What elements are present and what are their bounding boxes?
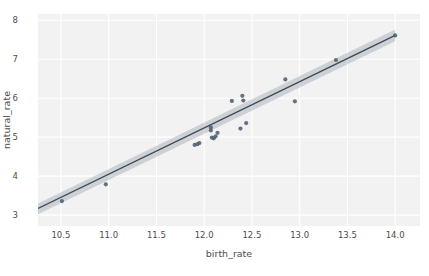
chart-figure: 10.511.011.512.012.513.013.514.0 345678 … — [0, 0, 429, 276]
y-tick-label: 7 — [13, 55, 18, 64]
x-tick-label: 13.5 — [338, 231, 357, 240]
x-tick-label: 12.0 — [195, 231, 214, 240]
y-tick-label: 6 — [13, 94, 18, 103]
x-tick-label: 14.0 — [386, 231, 405, 240]
y-tick-label: 3 — [13, 211, 18, 220]
x-tick-label: 11.0 — [99, 231, 118, 240]
x-tick-label: 13.0 — [290, 231, 309, 240]
x-tick-label: 11.5 — [147, 231, 166, 240]
y-tick-label: 5 — [13, 133, 18, 142]
x-tick-label: 12.5 — [242, 231, 261, 240]
scatter-plot-svg — [38, 14, 420, 226]
plot-panel — [38, 14, 420, 226]
y-tick-label: 8 — [13, 16, 18, 25]
y-tick-label: 4 — [13, 172, 18, 181]
x-tick-label: 10.5 — [51, 231, 70, 240]
regression-line — [38, 35, 395, 208]
y-axis-label: natural_rate — [1, 91, 12, 149]
x-axis-label: birth_rate — [206, 248, 252, 259]
